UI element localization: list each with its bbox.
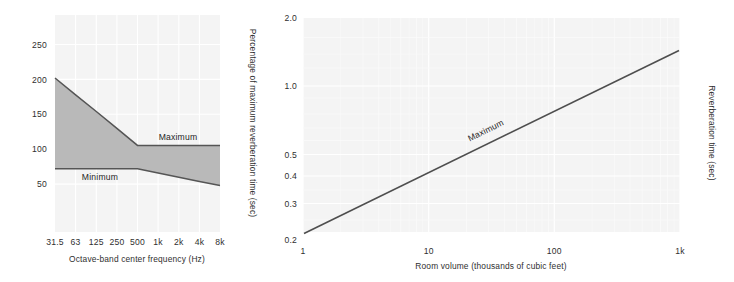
left-ytick-200: 200 [32, 75, 47, 85]
left-xtick-63: 63 [71, 237, 81, 247]
right-ytick-1-0: 1.0 [284, 81, 297, 91]
left-x-axis-title: Octave-band center frequency (Hz) [69, 254, 205, 264]
left-xtick-8k: 8k [215, 237, 225, 247]
left-y-axis-title: Percentage of maximum reverberation time… [248, 29, 258, 217]
left-xtick-1k: 1k [153, 237, 163, 247]
right-ytick-0-4: 0.4 [284, 171, 297, 181]
right-chart: 2.0 1.0 0.5 0.4 0.3 0.2 1 10 100 1k Maxi… [272, 0, 734, 282]
right-xtick-1: 1 [301, 246, 306, 256]
left-ytick-250: 250 [32, 40, 47, 50]
right-ytick-0-3: 0.3 [284, 199, 297, 209]
right-chart-svg: 2.0 1.0 0.5 0.4 0.3 0.2 1 10 100 1k Maxi… [272, 0, 734, 282]
right-ytick-0-2: 0.2 [284, 235, 297, 245]
right-y-axis-title: Reverberation time (sec) [707, 85, 717, 180]
left-ytick-100: 100 [32, 144, 47, 154]
left-chart: 250 200 150 100 50 31.5 63 125 250 500 1… [0, 0, 272, 282]
left-xtick-125: 125 [89, 237, 104, 247]
right-xtick-10: 10 [424, 246, 434, 256]
left-xtick-500: 500 [130, 237, 145, 247]
figure-pair: 250 200 150 100 50 31.5 63 125 250 500 1… [0, 0, 734, 282]
right-ytick-2-0: 2.0 [284, 13, 297, 23]
right-xtick-100: 100 [547, 246, 562, 256]
left-xtick-2k: 2k [174, 237, 184, 247]
right-x-axis-title: Room volume (thousands of cubic feet) [415, 261, 566, 271]
right-xtick-1k: 1k [675, 246, 685, 256]
left-xtick-4k: 4k [195, 237, 205, 247]
left-chart-svg: 250 200 150 100 50 31.5 63 125 250 500 1… [0, 0, 272, 282]
left-xtick-250: 250 [109, 237, 124, 247]
left-ytick-50: 50 [37, 179, 47, 189]
left-minimum-label: Minimum [82, 172, 118, 182]
left-xtick-31-5: 31.5 [46, 237, 64, 247]
right-ytick-0-5: 0.5 [284, 150, 297, 160]
left-maximum-label: Maximum [159, 132, 198, 142]
left-ytick-150: 150 [32, 109, 47, 119]
